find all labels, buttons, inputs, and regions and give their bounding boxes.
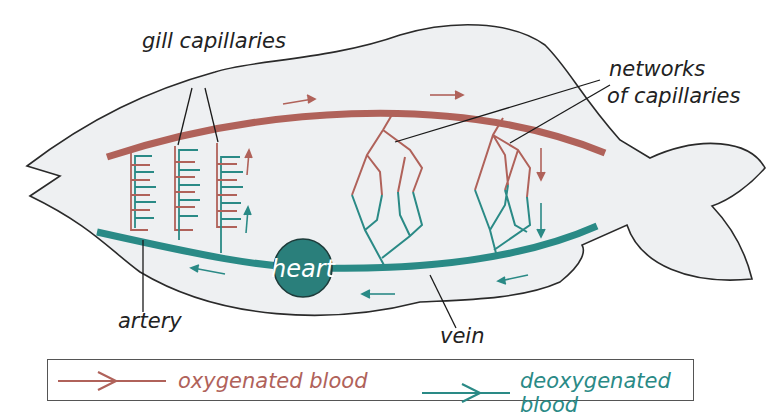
- deoxygenated-arrow-icon: [420, 383, 510, 403]
- artery-label: artery: [118, 309, 182, 333]
- legend-label-oxygenated: oxygenated blood: [178, 369, 367, 393]
- legend-label-deoxygenated: deoxygenated blood: [520, 369, 693, 417]
- heart-label: heart: [271, 255, 337, 283]
- gill-capillaries-label: gill capillaries: [142, 29, 286, 53]
- oxygenated-arrow-icon: [56, 371, 168, 391]
- fish-circulation-diagram: heart gill capillaries networks of capil…: [0, 0, 784, 417]
- legend-item-oxygenated: oxygenated blood: [56, 369, 367, 393]
- vein-label: vein: [440, 324, 485, 348]
- networks-label-line1: networks: [609, 57, 705, 81]
- legend: oxygenated blood deoxygenated blood: [47, 359, 694, 401]
- networks-label-line2: of capillaries: [607, 84, 740, 108]
- legend-item-deoxygenated: deoxygenated blood: [420, 369, 693, 417]
